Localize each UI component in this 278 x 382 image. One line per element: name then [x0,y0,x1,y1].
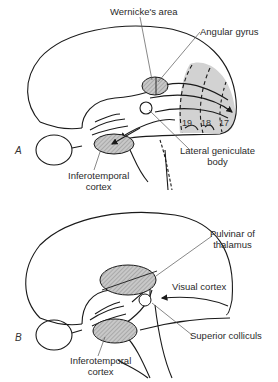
brain-diagram [0,0,278,382]
pulvinar-region [100,265,156,295]
label-wernickes-area: Wernicke's area [110,6,178,17]
area-17: 17 [219,118,229,128]
label-visual-cortex: Visual cortex [172,281,226,292]
label-angular-gyrus: Angular gyrus [200,26,259,37]
lateral-geniculate-body [140,102,152,114]
label-pulvinar: Pulvinar of thalamus [210,228,255,250]
label-superior-colliculus: Superior colliculs [190,330,262,341]
inferotemporal-region-b [93,319,137,343]
area-19: 19 [182,118,192,128]
cerebellum-a [36,135,72,165]
area-18: 18 [201,118,211,128]
cerebellum-b [36,320,72,350]
label-inferotemporal-b: Inferotemporal cortex [70,355,131,377]
panel-label-b: B [15,332,22,343]
wernickes-area-region [142,77,168,95]
panel-label-a: A [15,145,22,156]
inferotemporal-region-a [94,134,134,154]
label-lateral-geniculate: Lateral geniculate body [180,145,255,167]
label-inferotemporal-a: Inferotemporal cortex [68,170,129,192]
superior-colliculus [139,294,151,306]
